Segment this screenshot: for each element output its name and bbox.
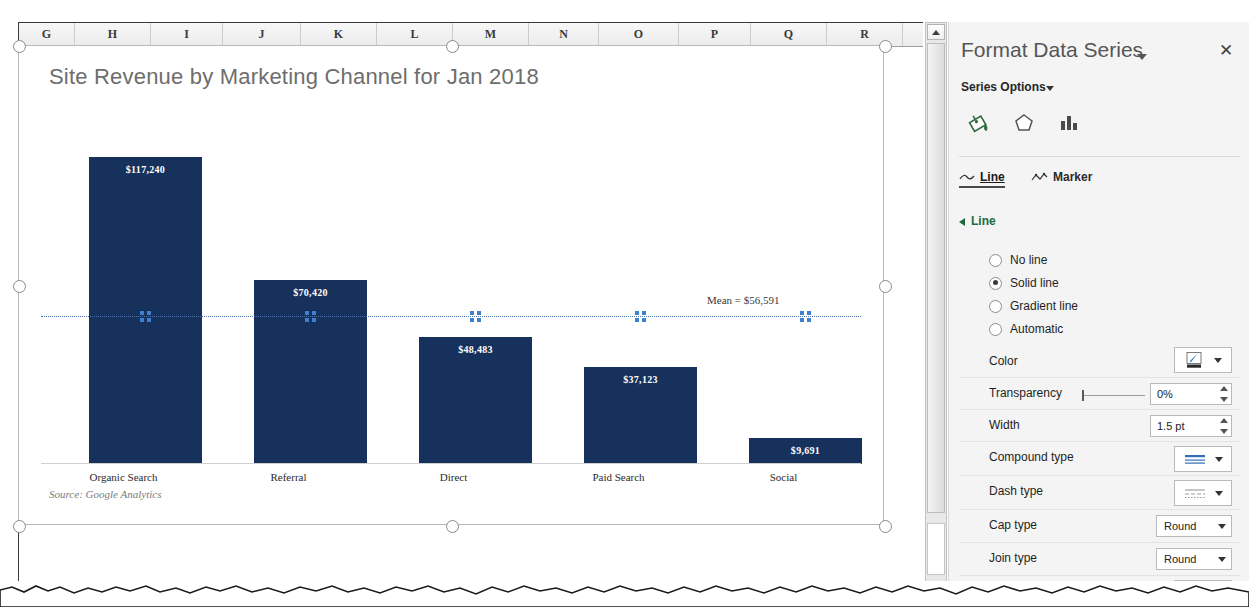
column-header-g[interactable]: G bbox=[19, 23, 75, 46]
scrollbar-track-lower[interactable] bbox=[927, 523, 945, 575]
transparency-slider-knob[interactable] bbox=[1082, 390, 1084, 401]
stepper-down-icon[interactable] bbox=[1220, 397, 1228, 402]
bar-direct[interactable]: $48,483 bbox=[419, 337, 532, 464]
width-input[interactable]: 1.5 pt bbox=[1150, 415, 1232, 437]
line-section-header[interactable]: Line bbox=[971, 214, 996, 228]
cap-type-value: Round bbox=[1164, 520, 1196, 532]
cap-type-dropdown[interactable]: Round bbox=[1156, 515, 1232, 537]
tab-marker-label: Marker bbox=[1053, 170, 1092, 184]
scrollbar-thumb[interactable] bbox=[927, 43, 945, 513]
transparency-value: 0% bbox=[1157, 388, 1173, 400]
bar-referral[interactable]: $70,420 bbox=[254, 280, 367, 464]
column-header-n[interactable]: N bbox=[529, 23, 599, 46]
mean-line[interactable] bbox=[41, 316, 861, 317]
radio-icon[interactable] bbox=[989, 323, 1002, 336]
radio-automatic-label: Automatic bbox=[1010, 322, 1063, 336]
triangle-right-icon[interactable] bbox=[959, 218, 965, 226]
column-header-q[interactable]: Q bbox=[751, 23, 827, 46]
column-header-h[interactable]: H bbox=[75, 23, 151, 46]
chevron-down-icon[interactable] bbox=[1214, 358, 1222, 363]
data-point-handle[interactable] bbox=[800, 311, 811, 322]
chevron-down-icon[interactable] bbox=[1218, 557, 1226, 562]
data-point-handle[interactable] bbox=[635, 311, 646, 322]
chevron-down-icon[interactable] bbox=[1046, 86, 1054, 91]
join-type-label: Join type bbox=[989, 551, 1037, 565]
radio-icon[interactable] bbox=[989, 254, 1002, 267]
line-icon bbox=[959, 172, 975, 182]
stepper-down-icon[interactable] bbox=[1220, 429, 1228, 434]
series-options-bar-icon[interactable] bbox=[1049, 106, 1089, 140]
radio-icon[interactable] bbox=[989, 300, 1002, 313]
tab-line[interactable]: Line bbox=[959, 170, 1005, 188]
panel-title: Format Data Series bbox=[961, 38, 1143, 62]
source-note: Source: Google Analytics bbox=[49, 488, 161, 500]
color-picker-button[interactable] bbox=[1174, 347, 1232, 373]
column-header-p[interactable]: P bbox=[679, 23, 751, 46]
data-point-handle[interactable] bbox=[140, 311, 151, 322]
bar-social[interactable]: $9,691 bbox=[749, 438, 862, 464]
compound-line-icon bbox=[1183, 451, 1207, 467]
column-header-r[interactable]: R bbox=[827, 23, 903, 46]
stepper-up-icon[interactable] bbox=[1220, 386, 1228, 391]
dash-type-dropdown[interactable] bbox=[1174, 480, 1232, 506]
chart-title[interactable]: Site Revenue by Marketing Channel for Ja… bbox=[49, 64, 539, 90]
fill-line-icon[interactable] bbox=[959, 106, 999, 140]
pen-color-icon bbox=[1184, 350, 1204, 370]
bar-value-label: $48,483 bbox=[419, 344, 532, 355]
compound-type-dropdown[interactable] bbox=[1174, 446, 1232, 472]
chart-object[interactable]: Site Revenue by Marketing Channel for Ja… bbox=[18, 45, 884, 525]
mean-line-label[interactable]: Mean = $56,591 bbox=[707, 294, 780, 306]
property-row-width: Width 1.5 pt bbox=[949, 412, 1249, 442]
column-header-l[interactable]: L bbox=[377, 23, 453, 46]
caret-up-icon bbox=[932, 30, 940, 35]
vertical-scrollbar[interactable] bbox=[925, 22, 947, 582]
property-divider bbox=[959, 409, 1240, 410]
data-point-handle[interactable] bbox=[470, 311, 481, 322]
close-icon[interactable]: ✕ bbox=[1219, 42, 1233, 59]
tab-marker[interactable]: Marker bbox=[1031, 170, 1092, 184]
chevron-down-icon[interactable] bbox=[1218, 524, 1226, 529]
radio-gradient-line-label: Gradient line bbox=[1010, 299, 1078, 313]
column-header-o[interactable]: O bbox=[599, 23, 679, 46]
property-divider bbox=[959, 542, 1240, 543]
radio-automatic[interactable]: Automatic bbox=[989, 319, 1063, 339]
join-type-dropdown[interactable]: Round bbox=[1156, 548, 1232, 570]
transparency-stepper[interactable] bbox=[1219, 386, 1228, 402]
column-header-i[interactable]: I bbox=[151, 23, 223, 46]
column-header-k[interactable]: K bbox=[301, 23, 377, 46]
width-stepper[interactable] bbox=[1219, 418, 1228, 434]
radio-no-line-label: No line bbox=[1010, 253, 1047, 267]
bar-value-label: $70,420 bbox=[254, 287, 367, 298]
bar-value-label: $117,240 bbox=[89, 164, 202, 175]
column-header-m[interactable]: M bbox=[453, 23, 529, 46]
chevron-down-icon[interactable] bbox=[1215, 457, 1223, 462]
column-header-j[interactable]: J bbox=[223, 23, 301, 46]
series-options-dropdown-label[interactable]: Series Options bbox=[961, 80, 1046, 94]
data-point-handle[interactable] bbox=[305, 311, 316, 322]
category-label-referral: Referral bbox=[206, 471, 371, 483]
effects-pentagon-icon[interactable] bbox=[1004, 106, 1044, 140]
bar-value-label: $9,691 bbox=[749, 445, 862, 456]
radio-no-line[interactable]: No line bbox=[989, 250, 1047, 270]
dash-line-icon bbox=[1183, 485, 1207, 501]
transparency-input[interactable]: 0% bbox=[1150, 383, 1232, 405]
stepper-up-icon[interactable] bbox=[1220, 418, 1228, 423]
torn-paper-edge bbox=[0, 581, 1249, 607]
compound-type-label: Compound type bbox=[989, 450, 1074, 464]
radio-solid-line[interactable]: Solid line bbox=[989, 273, 1059, 293]
category-label-social: Social bbox=[701, 471, 866, 483]
category-label-direct: Direct bbox=[371, 471, 536, 483]
transparency-slider-track[interactable] bbox=[1082, 395, 1145, 396]
radio-icon[interactable] bbox=[989, 277, 1002, 290]
color-label: Color bbox=[989, 354, 1018, 368]
dash-type-label: Dash type bbox=[989, 484, 1043, 498]
chevron-down-icon[interactable] bbox=[1215, 491, 1223, 496]
bar-paid-search[interactable]: $37,123 bbox=[584, 367, 697, 464]
category-axis-line bbox=[41, 463, 861, 464]
line-marker-tabs: Line Marker bbox=[959, 170, 1240, 190]
scroll-up-button[interactable] bbox=[927, 24, 945, 40]
property-row-dash-type: Dash type bbox=[949, 478, 1249, 508]
radio-gradient-line[interactable]: Gradient line bbox=[989, 296, 1078, 316]
chevron-down-icon[interactable] bbox=[1137, 54, 1147, 60]
property-row-join-type: Join type Round bbox=[949, 545, 1249, 575]
